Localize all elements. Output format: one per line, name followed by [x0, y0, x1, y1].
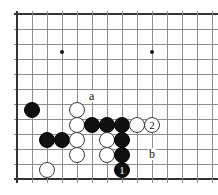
white-stone — [99, 132, 115, 148]
white-stone — [69, 102, 85, 118]
black-stone — [54, 132, 70, 148]
black-stone — [24, 102, 40, 118]
move-number-label: 1 — [119, 165, 125, 176]
grid-line-horizontal — [14, 74, 218, 75]
move-marker-1: 1 — [114, 162, 130, 178]
grid-line-vertical — [167, 11, 168, 183]
white-stone — [69, 147, 85, 163]
grid-line-horizontal — [14, 104, 218, 105]
white-stone — [39, 162, 55, 178]
go-board-diagram: 12ab — [0, 0, 218, 195]
star-point — [150, 50, 154, 54]
black-stone — [99, 117, 115, 133]
white-stone — [129, 117, 145, 133]
grid-line-horizontal — [14, 13, 218, 15]
star-point — [60, 50, 64, 54]
grid-line-horizontal — [14, 29, 218, 30]
white-stone — [69, 117, 85, 133]
grid-line-vertical — [137, 11, 138, 183]
black-stone — [114, 117, 130, 133]
black-stone — [84, 117, 100, 133]
grid-line-horizontal — [14, 44, 218, 45]
white-stone — [99, 147, 115, 163]
grid-line-vertical — [212, 11, 213, 183]
grid-line-vertical — [197, 11, 198, 183]
grid-line-vertical — [62, 11, 63, 183]
grid-line-vertical — [182, 11, 183, 183]
point-label-a: a — [88, 90, 95, 102]
move-marker-2: 2 — [144, 117, 160, 133]
grid-line-horizontal — [14, 89, 218, 90]
black-stone — [114, 132, 130, 148]
black-stone — [114, 147, 130, 163]
move-number-label: 2 — [149, 120, 155, 131]
grid-line-vertical — [32, 11, 33, 183]
black-stone — [39, 132, 55, 148]
grid-line-horizontal — [14, 178, 218, 180]
point-label-b: b — [148, 148, 156, 160]
white-stone — [69, 132, 85, 148]
grid-line-horizontal — [14, 59, 218, 60]
grid-line-vertical — [47, 11, 48, 183]
grid-line-vertical — [16, 11, 18, 183]
